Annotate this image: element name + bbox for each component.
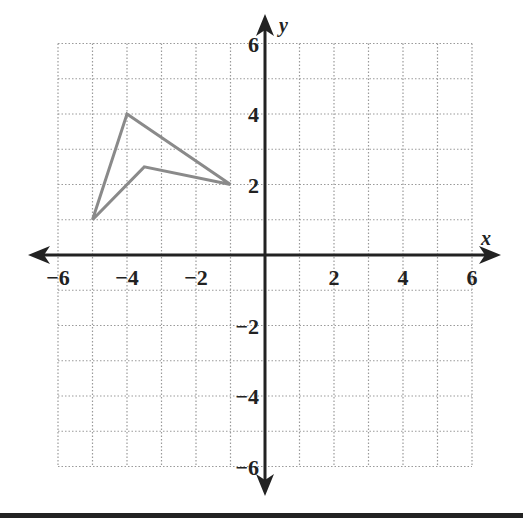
x-tick-label: −6 [46,265,70,290]
x-axis-label: x [480,227,491,249]
x-tick-label: −4 [115,265,139,290]
y-tick-label: 6 [248,32,259,57]
x-tick-label: −2 [184,265,208,290]
y-tick-label: −4 [235,384,259,409]
y-tick-label: 4 [248,102,259,127]
x-tick-label: 4 [398,265,409,290]
y-tick-label: 2 [248,173,259,198]
y-tick-label: −2 [235,314,259,339]
axes [28,14,501,496]
x-tick-label: 6 [467,265,478,290]
bottom-border [0,513,523,518]
x-tick-label: 2 [329,265,340,290]
coordinate-plane: −6−4−2246−6−4−2246 x y [0,0,523,518]
y-tick-label: −6 [235,455,259,480]
y-axis-label: y [277,14,288,37]
